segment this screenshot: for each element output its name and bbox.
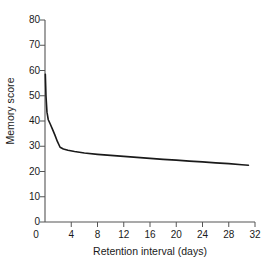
memory-retention-chart: Memory score 01020304050607080 048121620… [0, 0, 269, 265]
retention-curve [45, 74, 248, 165]
axis-ticks [40, 20, 255, 227]
plot-area [0, 0, 269, 265]
axis-lines [45, 20, 255, 222]
